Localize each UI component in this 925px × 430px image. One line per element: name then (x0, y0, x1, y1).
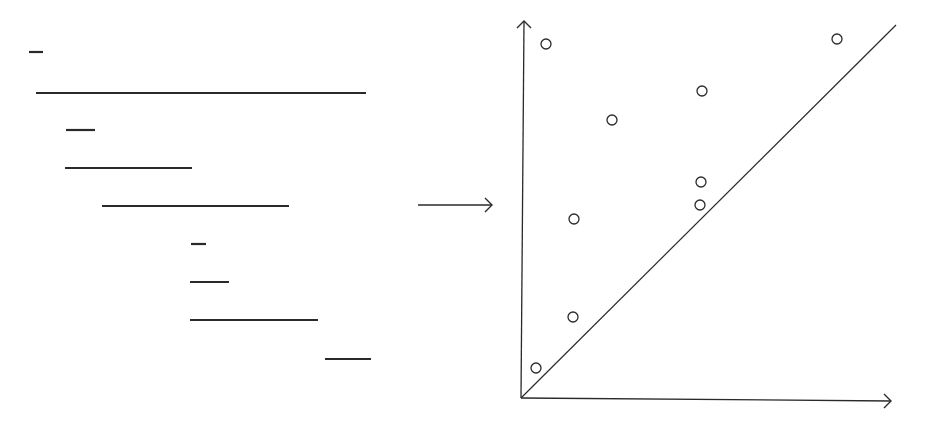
barcode (29, 52, 371, 359)
x-axis (521, 398, 891, 401)
y-axis (521, 21, 524, 398)
barcode-persistence-figure (0, 0, 925, 430)
persistence-point (695, 200, 705, 210)
diagonal-line (521, 25, 896, 398)
persistence-point (607, 115, 617, 125)
persistence-point (696, 177, 706, 187)
persistence-point (569, 214, 579, 224)
persistence-point (531, 363, 541, 373)
persistence-point (568, 312, 578, 322)
figure-canvas (0, 0, 925, 430)
persistence-point (541, 39, 551, 49)
diagonal (521, 25, 896, 398)
persistence-point (697, 86, 707, 96)
persistence-point (832, 34, 842, 44)
persistence-points (531, 34, 842, 373)
transform-arrow (418, 198, 492, 212)
